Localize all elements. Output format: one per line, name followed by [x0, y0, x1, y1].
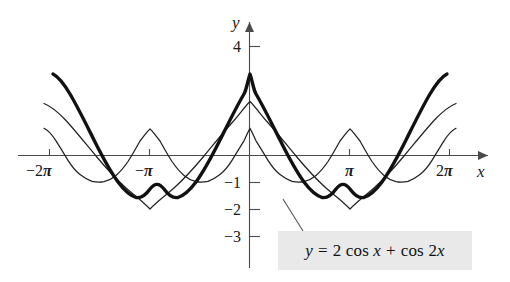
- equation-term-2: cos 2: [401, 241, 437, 260]
- x-tick-label-2pi-prefix: 2: [436, 162, 444, 179]
- y-axis-label: y: [232, 14, 240, 31]
- x-tick-label-2pi: 2π: [436, 163, 453, 179]
- x-axis-arrowhead: [478, 151, 488, 160]
- pi-symbol: π: [144, 162, 153, 179]
- equation-variable-2: x: [437, 241, 445, 260]
- equation-variable-1: x: [373, 241, 381, 260]
- equation-label: y=2 cosx+cos 2x: [305, 241, 445, 261]
- x-tick-label-minus-pi: −π: [135, 163, 153, 179]
- callout-leader-line: [283, 199, 303, 231]
- x-tick-label-minus-2pi-prefix: −2: [26, 162, 43, 179]
- equation-term-1: 2 cos: [333, 241, 369, 260]
- x-axis-label: x: [477, 163, 485, 180]
- y-tick-label-minus-2: −2: [224, 202, 241, 218]
- callout-leader-group: [283, 199, 303, 231]
- pi-symbol: π: [444, 162, 453, 179]
- x-tick-label-pi: π: [345, 163, 354, 179]
- y-axis-arrowhead: [245, 22, 254, 32]
- x-tick-label-minus-pi-prefix: −: [135, 162, 144, 179]
- pi-symbol: π: [345, 162, 354, 179]
- equation-plus: +: [386, 241, 396, 260]
- equation-equals: =: [318, 241, 328, 260]
- equation-callout-box: y=2 cosx+cos 2x: [278, 231, 472, 270]
- equation-lhs: y: [305, 241, 313, 260]
- x-tick-label-minus-2pi: −2π: [26, 163, 52, 179]
- pi-symbol: π: [43, 162, 52, 179]
- y-tick-label-minus-3: −3: [224, 229, 241, 245]
- y-tick-label-minus-1: −1: [224, 175, 241, 191]
- graph-figure: −2π −π π 2π 4 −1 −2 −3 y x y=2 cosx+cos …: [0, 0, 510, 282]
- y-tick-label-4: 4: [233, 39, 241, 55]
